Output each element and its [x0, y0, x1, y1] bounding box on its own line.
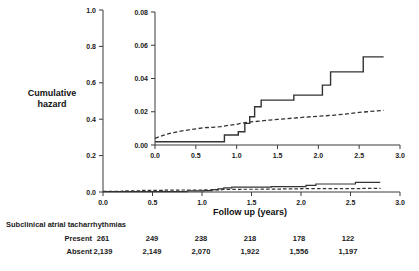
risk-table-title: Subclinical atrial tacharrhythmias [6, 220, 126, 229]
risk-row-label: Absent [12, 247, 92, 256]
main-x-tick-label: 2.0 [296, 199, 306, 206]
inset-y-tick-label: 0.04 [134, 75, 148, 82]
x-axis-label: Follow up (years) [150, 207, 350, 217]
risk-row-value: 2,139 [86, 247, 120, 256]
risk-row-label: Present [12, 234, 92, 243]
main-y-tick-label: 0.0 [86, 189, 96, 196]
risk-row-value: 1,197 [331, 247, 365, 256]
inset-x-tick-label: 1.5 [273, 152, 283, 159]
inset-x-tick-label: 3.0 [395, 152, 405, 159]
y-axis-label-line1: Cumulative [8, 88, 96, 99]
main-x-tick-label: 0.5 [148, 199, 158, 206]
risk-row-value: 249 [135, 234, 169, 243]
inset-chart: 0.000.020.040.060.080.00.51.01.52.02.53.… [155, 12, 400, 150]
main-x-tick-label: 3.0 [395, 199, 405, 206]
inset-y-tick-label: 0.02 [134, 108, 148, 115]
main-x-tick-label: 1.0 [197, 199, 207, 206]
risk-table-row: Absent2,1392,1492,0701,9221,5561,197 [0, 247, 419, 259]
risk-row-value: 2,070 [184, 247, 218, 256]
main-series-absent [103, 188, 380, 191]
inset-y-tick-label: 0.00 [134, 142, 148, 149]
inset-x-tick-label: 0.5 [191, 152, 201, 159]
inset-x-tick-label: 0.0 [150, 152, 160, 159]
main-y-tick-label: 0.6 [86, 79, 96, 86]
risk-row-value: 1,556 [282, 247, 316, 256]
figure-cumulative-hazard: Cumulative hazard 0.00.20.40.60.81.00.00… [0, 0, 419, 271]
risk-row-value: 2,149 [135, 247, 169, 256]
inset-x-tick-label: 2.5 [354, 152, 364, 159]
main-x-tick-label: 1.5 [247, 199, 257, 206]
inset-y-tick-label: 0.08 [134, 9, 148, 16]
y-axis-label: Cumulative hazard [8, 88, 96, 110]
inset-x-tick-label: 1.0 [232, 152, 242, 159]
inset-y-tick-label: 0.06 [134, 42, 148, 49]
risk-row-value: 122 [331, 234, 365, 243]
risk-row-value: 261 [86, 234, 120, 243]
risk-row-value: 218 [233, 234, 267, 243]
main-y-tick-label: 0.2 [86, 152, 96, 159]
risk-table-row: Present261249238218178122 [0, 234, 419, 246]
risk-row-value: 178 [282, 234, 316, 243]
main-x-tick-label: 2.5 [346, 199, 356, 206]
main-y-tick-label: 1.0 [86, 7, 96, 14]
inset-chart-svg: 0.000.020.040.060.080.00.51.01.52.02.53.… [155, 12, 400, 172]
main-y-tick-label: 0.8 [86, 43, 96, 50]
main-x-tick-label: 0.0 [98, 199, 108, 206]
main-y-tick-label: 0.4 [86, 116, 96, 123]
risk-row-value: 238 [184, 234, 218, 243]
risk-row-value: 1,922 [233, 247, 267, 256]
y-axis-label-line2: hazard [8, 99, 96, 110]
inset-x-tick-label: 2.0 [313, 152, 323, 159]
